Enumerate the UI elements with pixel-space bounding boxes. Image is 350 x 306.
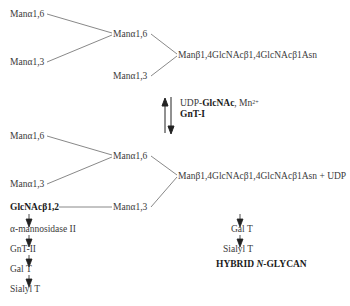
residue-man-a13-inner: Manα1,3	[113, 71, 147, 82]
reaction-substrate: UDP-GlcNAc, Mn2+	[180, 98, 259, 109]
bond-line	[47, 14, 112, 33]
residue-man-a16-inner: Manα1,6	[113, 29, 147, 40]
enzyme-sialyl-t: Sialyl T	[10, 284, 40, 295]
core-chain-bottom: Manβ1,4GlcNAcβ1,4GlcNAcβ1Asn + UDP	[178, 171, 346, 182]
enzyme-sialyl-t: Sialyl T	[223, 244, 253, 255]
residue-man-a16-outer: Manα1,6	[10, 131, 44, 142]
substrate-suffix: , Mn	[234, 98, 252, 108]
hybrid-prefix: HYBRID	[216, 259, 256, 269]
enzyme-gnt-ii: GnT-II	[10, 244, 36, 255]
arrow-head-up-icon	[162, 98, 168, 106]
core-chain-top: Manβ1,4GlcNAcβ1,4GlcNAcβ1Asn	[178, 50, 317, 61]
bond-line	[151, 34, 177, 54]
enzyme-a-mannosidase-ii: α-mannosidase II	[10, 224, 76, 235]
enzyme-gnt-i: GnT-I	[180, 109, 205, 120]
enzyme-gal-t: Gal T	[10, 264, 32, 275]
residue-man-a16-inner: Manα1,6	[113, 151, 147, 162]
bond-line	[47, 136, 112, 155]
substrate-prefix: UDP-	[180, 98, 202, 108]
cofactor-charge: 2+	[252, 99, 258, 105]
bond-line	[151, 177, 177, 207]
bond-line	[151, 56, 177, 76]
residue-man-a16-outer: Manα1,6	[10, 9, 44, 20]
residue-man-a13-inner: Manα1,3	[113, 202, 147, 213]
residue-man-a13-outer: Manα1,3	[10, 179, 44, 190]
bond-line	[47, 35, 112, 62]
residue-man-a13-outer: Manα1,3	[10, 57, 44, 68]
arrow-head-down-icon	[168, 126, 174, 134]
residue-glcnac-b12: GlcNAcβ1,2	[10, 202, 59, 213]
hybrid-suffix: -GLYCAN	[263, 259, 306, 269]
substrate-glcnac: GlcNAc	[202, 98, 234, 108]
bond-line	[151, 156, 177, 175]
hybrid-n-glycan-label: HYBRID N-GLYCAN	[216, 259, 307, 270]
enzyme-gal-t: Gal T	[231, 224, 253, 235]
bond-line	[47, 157, 112, 184]
